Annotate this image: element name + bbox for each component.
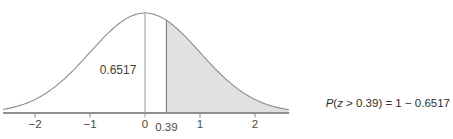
z-boundary-label: 0.39 [155, 121, 177, 133]
formula-line-1: P(z > 0.39) = 1 − 0.6517 [326, 94, 450, 113]
probability-formula: P(z > 0.39) = 1 − 0.6517 = 0.3483 [326, 56, 450, 139]
left-area-probability-label: 0.6517 [100, 63, 137, 77]
shaded-right-tail-region [166, 20, 289, 113]
x-tick-label-0: 0 [142, 118, 148, 130]
x-tick-label-neg1: −1 [83, 118, 96, 130]
curve-plot: −2 −1 0 1 2 0.39 0.6517 [0, 0, 300, 139]
normal-curve-figure: −2 −1 0 1 2 0.39 0.6517 P(z > 0.39) = 1 … [0, 0, 453, 139]
x-tick-label-neg2: −2 [28, 118, 41, 130]
x-tick-label-2: 2 [252, 118, 258, 130]
x-tick-label-1: 1 [197, 118, 203, 130]
formula-rest: > 0.39) = 1 − 0.6517 [343, 97, 450, 109]
